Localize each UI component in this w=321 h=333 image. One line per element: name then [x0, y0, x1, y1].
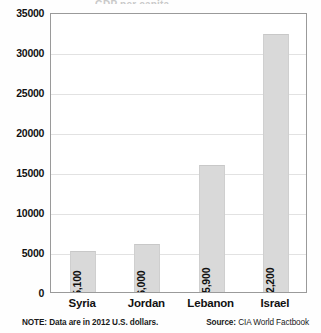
y-axis-tick-label: 25000 — [0, 88, 44, 98]
source-value: CIA World Factbook — [238, 318, 309, 327]
bar-value-label: $5,100 — [72, 271, 83, 293]
bar-value-label: $6,000 — [136, 271, 147, 293]
x-axis-category-label: Syria — [50, 297, 114, 309]
plot-area: $5,100$6,000$15,900$32,200 — [50, 13, 307, 293]
bar-value-label: $32,200 — [265, 268, 276, 293]
chart-title-clipped: GDP per capita — [95, 0, 245, 4]
chart-footer: NOTE: Data are in 2012 U.S. dollars. Sou… — [0, 318, 321, 333]
x-axis-category-label: Israel — [243, 297, 307, 309]
bar-value-label: $15,900 — [201, 268, 212, 293]
source-label: Source: — [206, 318, 236, 327]
y-axis-tick-label: 20000 — [0, 128, 44, 138]
y-axis-tick-label: 0 — [0, 288, 44, 298]
x-axis-category-label: Lebanon — [179, 297, 243, 309]
x-axis-category-label: Jordan — [114, 297, 178, 309]
y-axis-tick-label: 5000 — [0, 248, 44, 258]
chart-figure: GDP per capita 3500030000250002000015000… — [0, 0, 321, 333]
footnote-note: NOTE: Data are in 2012 U.S. dollars. — [22, 318, 158, 327]
y-axis-tick-label: 10000 — [0, 208, 44, 218]
y-axis-tick-label: 15000 — [0, 168, 44, 178]
footnote-source: Source: CIA World Factbook — [206, 318, 309, 327]
bar: $15,900 — [199, 165, 225, 292]
bar: $6,000 — [134, 244, 160, 292]
bar: $32,200 — [263, 34, 289, 292]
bar: $5,100 — [70, 251, 96, 292]
y-axis-tick-label: 35000 — [0, 8, 44, 18]
y-axis-tick-label: 30000 — [0, 48, 44, 58]
